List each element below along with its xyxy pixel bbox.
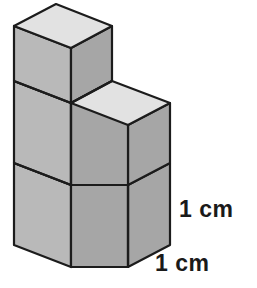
right-face-group: [71, 26, 170, 267]
isometric-cube-illustration: [0, 0, 257, 288]
height-label: 1 cm: [179, 198, 233, 221]
left-face-group: [14, 26, 71, 267]
right-face-bottom-left: [71, 185, 128, 267]
width-label: 1 cm: [155, 252, 209, 275]
cube-figure: 1 cm 1 cm: [0, 0, 257, 288]
